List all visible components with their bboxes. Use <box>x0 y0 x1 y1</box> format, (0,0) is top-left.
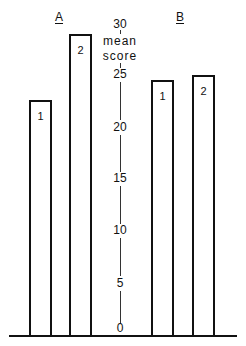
bar-b1: 1 <box>151 80 174 335</box>
bar-label-a1: 1 <box>31 110 50 122</box>
bar-label-a2: 2 <box>71 44 90 56</box>
group-label-a: A <box>55 10 63 24</box>
y-tick-0: 0 <box>105 322 135 334</box>
bar-label-b2: 2 <box>194 85 213 97</box>
axis-segment <box>120 186 121 224</box>
y-axis-title-line1: mean <box>95 35 145 47</box>
bar-label-b1: 1 <box>153 90 172 102</box>
x-axis-baseline <box>9 335 237 337</box>
axis-segment <box>120 291 121 323</box>
y-tick-20: 20 <box>105 121 135 133</box>
y-tick-30: 30 <box>105 18 135 30</box>
bar-a1: 1 <box>29 100 52 335</box>
y-tick-15: 15 <box>105 172 135 184</box>
y-tick-25: 25 <box>105 68 135 80</box>
axis-segment <box>120 82 121 120</box>
axis-segment <box>120 135 121 172</box>
axis-segment <box>120 238 121 276</box>
y-tick-10: 10 <box>105 224 135 236</box>
y-axis-title-line2: score <box>95 50 145 62</box>
bar-a2: 2 <box>69 34 92 335</box>
y-tick-5: 5 <box>105 277 135 289</box>
bar-chart: A B 1 2 1 2 30 mean score 25 20 15 10 5 … <box>0 0 246 346</box>
group-label-b: B <box>176 10 184 24</box>
bar-b2: 2 <box>192 75 215 335</box>
